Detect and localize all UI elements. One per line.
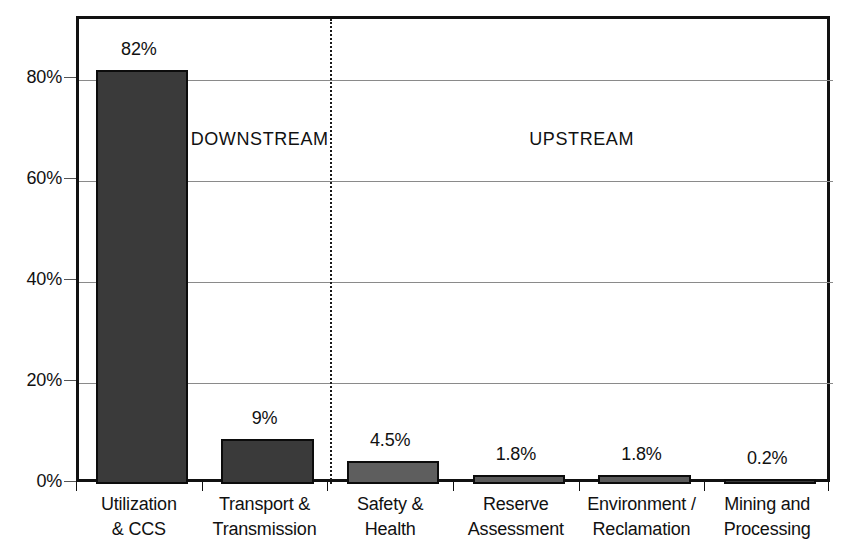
bar-value-label: 1.8% xyxy=(453,444,579,465)
x-category-label-line: & CCS xyxy=(76,517,202,542)
x-category-label-line: Health xyxy=(327,517,453,542)
x-tick-mark xyxy=(327,481,328,491)
x-tick-mark xyxy=(579,481,580,491)
x-category-label-line: Transmission xyxy=(202,517,328,542)
section-label-upstream: UPSTREAM xyxy=(330,129,833,150)
x-tick-mark xyxy=(202,481,203,491)
section-divider-line xyxy=(330,19,332,484)
x-category-label-line: Safety & xyxy=(327,492,453,517)
x-category-label-line: Mining and xyxy=(704,492,830,517)
gridline xyxy=(79,80,833,81)
x-category-label: Safety &Health xyxy=(327,492,453,542)
x-category-label: Transport &Transmission xyxy=(202,492,328,542)
y-tick-label: 40% xyxy=(6,269,62,290)
plot-area: DOWNSTREAM UPSTREAM xyxy=(76,16,830,482)
x-category-label-line: Reclamation xyxy=(579,517,705,542)
bar-value-label: 82% xyxy=(76,39,202,60)
bar-value-label: 0.2% xyxy=(704,448,830,469)
bar xyxy=(221,439,313,484)
bar-value-label: 1.8% xyxy=(579,444,705,465)
x-category-label: Environment /Reclamation xyxy=(579,492,705,542)
y-tick-label: 20% xyxy=(6,370,62,391)
gridline xyxy=(79,383,833,384)
x-category-label-line: Reserve xyxy=(453,492,579,517)
bar xyxy=(473,475,565,484)
bar-value-label: 4.5% xyxy=(327,430,453,451)
x-category-label-line: Utilization xyxy=(76,492,202,517)
bar-value-label: 9% xyxy=(202,408,328,429)
x-category-label: Mining andProcessing xyxy=(704,492,830,542)
x-tick-mark xyxy=(453,481,454,491)
bar xyxy=(598,475,690,484)
y-tick-label: 0% xyxy=(6,471,62,492)
x-category-label-line: Assessment xyxy=(453,517,579,542)
y-tick-label: 80% xyxy=(6,67,62,88)
bar xyxy=(347,461,439,484)
x-category-label: ReserveAssessment xyxy=(453,492,579,542)
chart-screenshot: 0%20%40%60%80% DOWNSTREAM UPSTREAM 82%9%… xyxy=(0,0,852,552)
x-category-label-line: Processing xyxy=(704,517,830,542)
x-category-label-line: Environment / xyxy=(579,492,705,517)
gridline xyxy=(79,282,833,283)
gridline xyxy=(79,181,833,182)
x-tick-mark xyxy=(76,481,77,491)
section-label-downstream: DOWNSTREAM xyxy=(79,129,330,150)
x-tick-mark xyxy=(828,481,829,491)
x-category-label-line: Transport & xyxy=(202,492,328,517)
y-tick-label: 60% xyxy=(6,168,62,189)
x-category-label: Utilization& CCS xyxy=(76,492,202,542)
x-tick-mark xyxy=(704,481,705,491)
bar xyxy=(724,479,816,484)
